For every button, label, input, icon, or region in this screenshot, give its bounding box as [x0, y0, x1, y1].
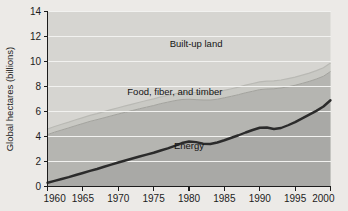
- chart-container: 02468101214 1960196519701975198019851990…: [0, 0, 348, 211]
- stacked-area-chart: 02468101214 1960196519701975198019851990…: [0, 0, 348, 211]
- y-tick-label: 2: [35, 156, 41, 167]
- x-tick-label: 1990: [249, 193, 272, 204]
- y-tick-label: 8: [35, 81, 41, 92]
- series-label: Built-up land: [170, 38, 223, 49]
- x-tick-label: 1985: [213, 193, 236, 204]
- y-tick-label: 12: [30, 31, 42, 42]
- y-tick-label: 14: [30, 6, 42, 17]
- series-label: Food, fiber, and timber: [127, 86, 222, 97]
- y-tick-label: 0: [35, 181, 41, 192]
- x-tick-label: 1970: [107, 193, 130, 204]
- x-tick-label: 2000: [312, 193, 335, 204]
- x-tick-label: 1995: [284, 193, 307, 204]
- y-tick-label: 6: [35, 106, 41, 117]
- x-tick-label: 1980: [178, 193, 201, 204]
- x-tick-label: 1965: [72, 193, 95, 204]
- y-axis-title: Global hectares (billions): [4, 47, 15, 152]
- series-label: Energy: [174, 140, 204, 151]
- y-tick-label: 10: [30, 56, 42, 67]
- y-tick-label: 4: [35, 131, 41, 142]
- x-tick-label: 1975: [143, 193, 166, 204]
- x-tick-label: 1960: [44, 193, 67, 204]
